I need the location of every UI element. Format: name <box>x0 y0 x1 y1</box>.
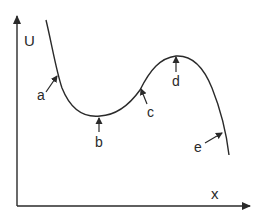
point-c: c <box>141 89 154 120</box>
point-label-c: c <box>147 104 154 120</box>
point-label-a: a <box>37 87 45 103</box>
energy-curve <box>46 20 229 155</box>
point-label-e: e <box>194 139 202 155</box>
point-label-b: b <box>95 134 103 150</box>
point-a: a <box>37 76 57 103</box>
point-e: e <box>194 133 222 155</box>
point-d: d <box>172 57 180 89</box>
arrow-a-icon <box>46 76 57 92</box>
arrow-c-icon <box>141 89 147 104</box>
y-axis-label: U <box>24 32 35 49</box>
x-axis-label: x <box>211 185 219 202</box>
potential-energy-diagram: U x a b c d e <box>0 0 265 220</box>
arrow-e-icon <box>205 133 222 143</box>
point-label-d: d <box>172 73 180 89</box>
point-b: b <box>95 118 103 150</box>
